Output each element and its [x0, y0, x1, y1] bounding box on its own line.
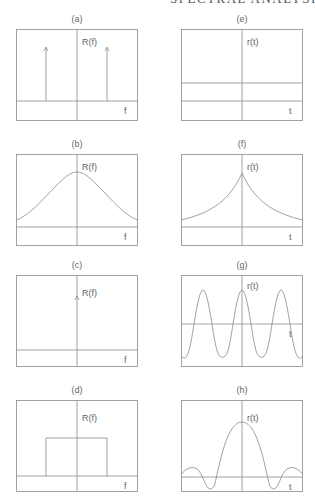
func-label-h: r(t)	[247, 413, 259, 423]
axis-label-h: t	[289, 482, 292, 492]
plot-h-labels: r(t) t	[0, 0, 315, 501]
